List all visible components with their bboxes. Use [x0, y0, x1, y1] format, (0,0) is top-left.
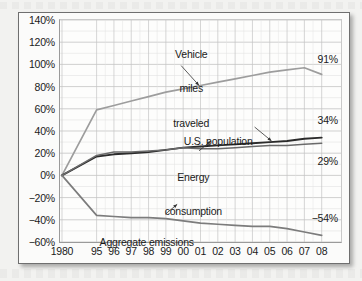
x-tick-04: 04	[247, 245, 258, 257]
end-label-us-population: 34%	[318, 114, 338, 126]
y-tick-140: 140%	[29, 14, 55, 26]
y-tick-40: 40%	[35, 125, 55, 137]
x-tick-05: 05	[264, 245, 275, 257]
annotation-line-1: U.S. population	[177, 136, 259, 148]
annotation-line-1: Energy	[157, 172, 229, 184]
annotation-aggregate-emissions: Aggregate emissions	[96, 214, 198, 272]
x-tick-03: 03	[229, 245, 240, 257]
y-tick-20: 20%	[35, 147, 55, 159]
annotation-line-1: Aggregate emissions	[96, 237, 198, 249]
y-tick-120: 120%	[29, 36, 55, 48]
end-label-aggregate-emissions: −54%	[312, 212, 338, 224]
x-tick-1980: 1980	[51, 245, 74, 257]
y-tick-0: 0%	[40, 169, 55, 181]
y-tick-80: 80%	[35, 81, 55, 93]
annotation-line-2: miles	[163, 83, 219, 95]
x-tick-02: 02	[212, 245, 223, 257]
chart-figure: 140% 120% 100% 80% 60% 40% 20% 0% −20% −…	[18, 12, 350, 264]
scan-artifact-top	[0, 2, 362, 9]
y-tick-minus-20: −20%	[29, 192, 55, 204]
end-label-energy-consumption: 29%	[318, 155, 338, 167]
x-tick-07: 07	[299, 245, 310, 257]
page-background: 140% 120% 100% 80% 60% 40% 20% 0% −20% −…	[0, 0, 362, 281]
x-tick-06: 06	[281, 245, 292, 257]
x-tick-08: 08	[316, 245, 327, 257]
plot-area: 140% 120% 100% 80% 60% 40% 20% 0% −20% −…	[59, 19, 342, 243]
y-tick-minus-40: −40%	[29, 214, 55, 226]
y-tick-100: 100%	[29, 58, 55, 70]
end-label-vehicle-miles-traveled: 91%	[318, 53, 338, 65]
annotation-line-1: Vehicle	[163, 49, 219, 61]
y-tick-60: 60%	[35, 103, 55, 115]
